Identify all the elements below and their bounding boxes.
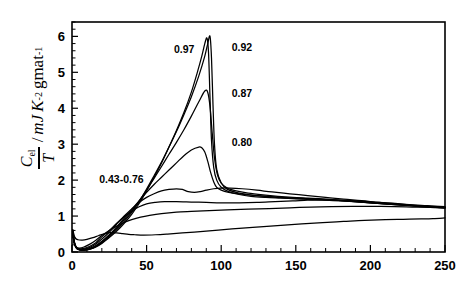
y-tick-label: 4 xyxy=(58,101,66,116)
y-tick-label: 2 xyxy=(58,173,65,188)
annotation-0.80: 0.80 xyxy=(232,136,253,148)
figure-panel: 0501001502002500123456 0.970.920.870.800… xyxy=(0,0,471,296)
y-tick-label: 1 xyxy=(58,209,65,224)
curve-0.97 xyxy=(73,38,445,250)
x-tick-label: 250 xyxy=(434,258,456,273)
tick-labels: 0501001502002500123456 xyxy=(58,29,456,273)
annotation-0.92: 0.92 xyxy=(232,41,253,53)
x-tick-label: 0 xyxy=(68,258,75,273)
x-tick-label: 50 xyxy=(139,258,153,273)
y-tick-label: 3 xyxy=(58,137,65,152)
annotation-0.97: 0.97 xyxy=(174,43,195,55)
data-curves xyxy=(73,36,445,250)
annotation-0.43-0.76: 0.43-0.76 xyxy=(99,173,144,185)
y-tick-label: 0 xyxy=(58,245,65,260)
chart-svg: 0501001502002500123456 0.970.920.870.800… xyxy=(0,0,471,296)
x-tick-label: 200 xyxy=(360,258,382,273)
curve-0.87 xyxy=(73,90,445,250)
annotation-0.87: 0.87 xyxy=(232,87,253,99)
x-tick-label: 150 xyxy=(285,258,307,273)
y-tick-label: 5 xyxy=(58,65,65,80)
y-tick-label: 6 xyxy=(58,29,65,44)
x-tick-label: 100 xyxy=(210,258,232,273)
